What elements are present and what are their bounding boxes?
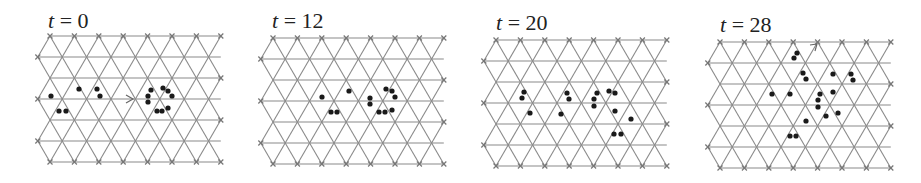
panel-t-12: t = 12 <box>258 8 446 167</box>
lattice-figure: t = 0t = 12t = 20t = 28 <box>0 0 921 183</box>
time-label: t = 12 <box>272 8 324 33</box>
particle-dot <box>794 50 799 55</box>
particle-dot <box>769 91 774 96</box>
particle-dot <box>628 116 633 121</box>
particle-dot <box>787 133 792 138</box>
particle-dot <box>145 93 150 98</box>
particle-dot <box>169 93 174 98</box>
particle-dot <box>76 86 81 91</box>
time-label: t = 0 <box>48 8 89 33</box>
particle-dot <box>566 96 571 101</box>
particle-dot <box>160 85 165 90</box>
particle-dot <box>791 55 796 60</box>
particle-dot <box>835 110 840 115</box>
panel-t-0: t = 0 <box>35 8 223 165</box>
particle-dot <box>830 71 835 76</box>
time-label: t = 20 <box>496 10 548 35</box>
particle-dot <box>527 110 532 115</box>
panel-t-20: t = 20 <box>481 10 669 169</box>
panel-t-28: t = 28 <box>705 12 893 171</box>
particle-dot <box>519 95 524 100</box>
particle-dot <box>63 108 68 113</box>
triangular-lattice <box>38 36 221 162</box>
particle-dot <box>521 89 526 94</box>
particle-dot <box>94 86 99 91</box>
particle-dot <box>611 131 616 136</box>
particle-dot <box>803 118 808 123</box>
particle-dot <box>48 93 53 98</box>
particle-dot <box>612 90 617 95</box>
particle-dot <box>383 86 388 91</box>
particle-dot <box>591 103 596 108</box>
particle-dot <box>594 90 599 95</box>
particle-dot <box>848 71 853 76</box>
particle-dot <box>145 99 150 104</box>
particle-dot <box>558 111 563 116</box>
particle-dot <box>564 90 569 95</box>
particle-dot <box>850 77 855 82</box>
particle-dot <box>148 87 153 92</box>
triangular-lattice <box>708 42 891 168</box>
particle-dot <box>800 70 805 75</box>
particle-dot <box>612 108 617 113</box>
particle-dot <box>823 113 828 118</box>
particle-dot <box>328 109 333 114</box>
particle-dot <box>389 88 394 93</box>
particle-dot <box>367 95 372 100</box>
particle-dot <box>793 133 798 138</box>
particle-dot <box>334 109 339 114</box>
particle-dot <box>165 88 170 93</box>
particle-dot <box>319 94 324 99</box>
particle-dot <box>165 105 170 110</box>
particle-dot <box>787 91 792 96</box>
particle-dot <box>618 131 623 136</box>
particle-dot <box>389 107 394 112</box>
particle-dot <box>830 89 835 94</box>
panels-container: t = 0t = 12t = 20t = 28 <box>35 8 893 171</box>
particle-dot <box>591 96 596 101</box>
particle-dot <box>346 88 351 93</box>
particle-dot <box>815 97 820 102</box>
particle-dot <box>382 109 387 114</box>
particle-dot <box>606 88 611 93</box>
particle-dot <box>392 94 397 99</box>
particle-dot <box>815 104 820 109</box>
particle-dot <box>376 109 381 114</box>
particle-dot <box>97 93 102 98</box>
particle-dot <box>56 108 61 113</box>
particle-dot <box>154 108 159 113</box>
particle-dot <box>817 91 822 96</box>
triangular-lattice <box>261 38 444 164</box>
particle-dot <box>367 101 372 106</box>
particle-dot <box>159 108 164 113</box>
time-label: t = 28 <box>720 12 772 37</box>
triangular-lattice <box>484 40 667 166</box>
particle-dot <box>803 76 808 81</box>
